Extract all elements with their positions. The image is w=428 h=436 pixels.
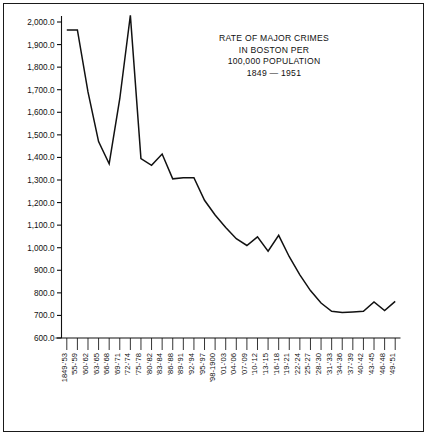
x-axis-tick-label: '60-'62 (81, 353, 90, 375)
y-axis-tick-label: 900.0 (34, 266, 55, 275)
x-axis: 1849-'53'55-'59'60-'62'63-'65'66-'68'69-… (56, 338, 401, 382)
x-axis-tick-label: '83-'84 (155, 353, 164, 375)
y-axis-tick-label: 1,500.0 (27, 131, 55, 140)
x-axis-tick-label: '22-'24 (293, 353, 302, 375)
x-axis-tick-label: '40-'42 (356, 353, 365, 375)
x-axis-tick-label: '25-'27 (303, 353, 312, 375)
x-axis-tick-label: '95-'97 (198, 353, 207, 375)
y-axis-tick-label: 800.0 (34, 289, 55, 298)
x-axis-tick-label: '66-'68 (102, 353, 111, 375)
x-axis-tick-label: '13-'15 (261, 353, 270, 375)
x-axis-tick-label: '19-'21 (282, 353, 291, 375)
y-axis-tick-label: 1,100.0 (27, 221, 55, 230)
x-axis-tick-label: '01-'03 (219, 353, 228, 375)
x-axis-tick-label: '63-'65 (92, 353, 101, 375)
x-axis-tick-label: '72-'74 (123, 353, 132, 375)
crime-rate-line (67, 15, 395, 312)
y-axis-tick-label: 1,400.0 (27, 153, 55, 162)
x-axis-tick-label: '46-'48 (378, 353, 387, 375)
y-axis-tick-label: 1,900.0 (27, 41, 55, 50)
x-axis-tick-label: '55-'59 (70, 353, 79, 375)
y-axis-tick-label: 1,300.0 (27, 176, 55, 185)
x-axis-tick-label: '89-'91 (176, 353, 185, 375)
x-axis-tick-label: '69-'71 (113, 353, 122, 375)
y-axis-tick-label: 1,800.0 (27, 63, 55, 72)
x-axis-tick-label: '16-'18 (272, 353, 281, 375)
x-axis-tick-label: '49-'51 (388, 353, 397, 375)
x-axis-tick-label: '92-'94 (187, 353, 196, 375)
chart-figure: RATE OF MAJOR CRIMES IN BOSTON PER 100,0… (0, 0, 428, 436)
y-axis-tick-label: 600.0 (34, 334, 55, 343)
y-axis-tick-label: 1,600.0 (27, 108, 55, 117)
line-chart-plot: 2,000.01,900.01,800.01,700.01,600.01,500… (0, 0, 428, 436)
x-axis-tick-label: '98-1900 (208, 353, 217, 382)
x-axis-tick-label: '04-'06 (229, 353, 238, 375)
x-axis-tick-label: '07-'09 (240, 353, 249, 375)
x-axis-tick-label: 1849-'53 (60, 353, 69, 382)
x-axis-tick-label: '10-'12 (250, 353, 259, 375)
x-axis-tick-label: '80-'82 (145, 353, 154, 375)
x-axis-tick-label: '37-'39 (346, 353, 355, 375)
y-axis: 2,000.01,900.01,800.01,700.01,600.01,500… (27, 16, 61, 343)
x-axis-tick-label: '31-'33 (325, 353, 334, 375)
crime-rate-series (67, 15, 395, 312)
y-axis-tick-label: 2,000.0 (27, 18, 55, 27)
y-axis-tick-label: 700.0 (34, 311, 55, 320)
y-axis-tick-label: 1,000.0 (27, 244, 55, 253)
x-axis-tick-label: '43-'45 (367, 353, 376, 375)
x-axis-tick-label: '86-'88 (166, 353, 175, 375)
x-axis-tick-label: '28-'30 (314, 353, 323, 375)
y-axis-tick-label: 1,700.0 (27, 86, 55, 95)
x-axis-tick-label: '34-'36 (335, 353, 344, 375)
x-axis-tick-label: '75-'78 (134, 353, 143, 375)
y-axis-tick-label: 1,200.0 (27, 199, 55, 208)
